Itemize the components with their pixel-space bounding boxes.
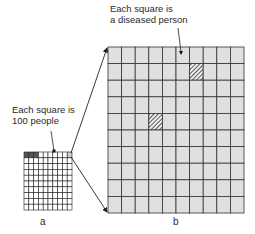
large-grid-cell — [190, 180, 204, 197]
large-grid-cell — [135, 97, 149, 114]
large-grid-cell — [190, 147, 204, 164]
small-grid-cell — [24, 204, 29, 210]
large-grid-cell — [230, 113, 244, 130]
small-grid-cell — [43, 164, 48, 170]
large-grid-cell — [190, 130, 204, 147]
small-grid-cell — [34, 152, 39, 158]
large-grid-cell — [122, 80, 136, 97]
small-grid-cell — [24, 169, 29, 175]
small-grid-cell — [43, 152, 48, 158]
large-grid-cell — [203, 97, 217, 114]
small-grid-cell — [58, 193, 63, 199]
large-grid-cell — [203, 180, 217, 197]
small-grid-cell — [67, 181, 72, 187]
large-grid-cell — [176, 180, 190, 197]
small-grid-cell — [38, 204, 43, 210]
small-grid-cell — [48, 152, 53, 158]
small-grid-cell — [53, 169, 58, 175]
large-grid-cell — [108, 97, 122, 114]
small-grid-cell — [38, 164, 43, 170]
small-grid-cell — [29, 158, 34, 164]
small-grid-cell — [34, 193, 39, 199]
large-grid-cell — [203, 130, 217, 147]
small-grid-cell — [43, 181, 48, 187]
large-grid-cell — [162, 47, 176, 64]
small-grid-cell — [29, 204, 34, 210]
large-grid-cell — [135, 47, 149, 64]
large-grid-cell — [217, 130, 231, 147]
large-grid-cell — [230, 64, 244, 81]
large-grid-cell — [162, 130, 176, 147]
large-grid-cell — [190, 47, 204, 64]
large-grid-cell — [149, 163, 163, 180]
large-grid-cell — [203, 196, 217, 213]
small-grid-cell — [67, 204, 72, 210]
small-grid-cell — [58, 198, 63, 204]
large-grid-cell — [217, 180, 231, 197]
small-grid-cell — [43, 169, 48, 175]
small-grid-cell — [38, 187, 43, 193]
large-grid-cell — [230, 80, 244, 97]
large-grid-cell — [176, 163, 190, 180]
large-grid-cell — [230, 147, 244, 164]
small-grid-cell — [34, 169, 39, 175]
large-grid-cell — [108, 80, 122, 97]
large-grid-cell — [108, 163, 122, 180]
small-grid-cell — [67, 164, 72, 170]
small-grid-cell — [29, 187, 34, 193]
large-grid-cell — [162, 113, 176, 130]
small-grid-cell — [34, 181, 39, 187]
large-grid-cell — [203, 163, 217, 180]
small-grid-cell — [58, 152, 63, 158]
small-grid-cell — [38, 175, 43, 181]
large-grid-cell — [190, 113, 204, 130]
large-grid-cell — [108, 47, 122, 64]
small-grid-cell — [62, 204, 67, 210]
large-grid-cell — [122, 163, 136, 180]
large-grid-cell — [176, 80, 190, 97]
small-grid-cell — [24, 158, 29, 164]
small-grid-cell — [53, 198, 58, 204]
small-grid-cell — [29, 152, 34, 158]
pointer-small-grid-tip — [53, 150, 56, 153]
large-grid-cell — [203, 64, 217, 81]
small-grid-cell — [34, 204, 39, 210]
large-grid-cell — [162, 80, 176, 97]
large-grid-cell — [203, 80, 217, 97]
large-grid-cell — [162, 64, 176, 81]
large-grid-cell — [217, 113, 231, 130]
small-grid-cell — [67, 175, 72, 181]
small-grid-cell — [62, 181, 67, 187]
small-grid — [24, 152, 72, 210]
small-grid-cell — [67, 198, 72, 204]
small-grid-cell — [67, 158, 72, 164]
small-grid-cell — [34, 198, 39, 204]
small-grid-cell — [53, 204, 58, 210]
large-grid-cell — [217, 97, 231, 114]
diseased-person-cell — [149, 113, 163, 130]
small-grid-cell — [67, 187, 72, 193]
large-grid-cell — [217, 64, 231, 81]
large-grid-cell — [230, 130, 244, 147]
small-grid-cell — [62, 187, 67, 193]
large-grid-cell — [217, 163, 231, 180]
small-grid-cell — [38, 152, 43, 158]
small-grid-cell — [48, 198, 53, 204]
diseased-person-cell — [190, 64, 204, 81]
diagram-canvas — [0, 0, 255, 234]
large-grid-cell — [135, 163, 149, 180]
small-grid-cell — [53, 152, 58, 158]
small-grid-cell — [53, 187, 58, 193]
small-grid-cell — [43, 158, 48, 164]
large-grid-cell — [108, 113, 122, 130]
small-grid-cell — [43, 198, 48, 204]
large-grid-cell — [149, 64, 163, 81]
large-grid-cell — [203, 113, 217, 130]
small-grid-cell — [38, 198, 43, 204]
large-grid-cell — [135, 180, 149, 197]
small-grid-cell — [43, 175, 48, 181]
large-grid-cell — [176, 130, 190, 147]
small-grid-cell — [34, 187, 39, 193]
large-grid-cell — [162, 180, 176, 197]
large-grid-cell — [122, 113, 136, 130]
